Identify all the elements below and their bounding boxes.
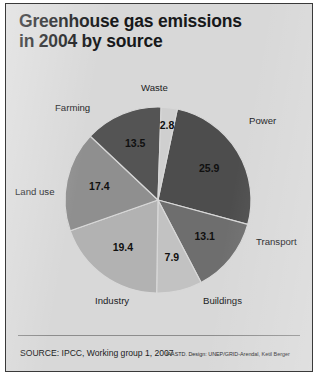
pie-value-industry: 19.4	[113, 241, 134, 253]
pie-label-waste: Waste	[141, 82, 168, 93]
pie-label-power: Power	[249, 115, 276, 126]
pie-label-industry: Industry	[95, 295, 129, 306]
pie-value-farming: 13.5	[125, 137, 146, 149]
pie-value-land-use: 17.4	[89, 180, 110, 192]
pie-label-land-use: Land use	[15, 186, 54, 197]
source-note: SOURCE: IPCC, Working group 1, 2007	[20, 348, 174, 358]
pie-label-buildings: Buildings	[203, 295, 242, 306]
pie-value-waste: 2.8	[160, 119, 175, 131]
pie-value-power: 25.9	[199, 162, 220, 174]
pie-label-farming: Farming	[55, 102, 90, 113]
poster-panel: Greenhouse gas emissions in 2004 by sour…	[5, 3, 313, 372]
credit-note: IAASTD. Design: UNEP/GRID-Arendal, Ketil…	[166, 351, 290, 357]
pie-label-transport: Transport	[256, 236, 297, 247]
footer-divider	[18, 335, 300, 336]
pie-value-transport: 13.1	[194, 230, 215, 242]
pie-value-buildings: 7.9	[165, 251, 180, 263]
